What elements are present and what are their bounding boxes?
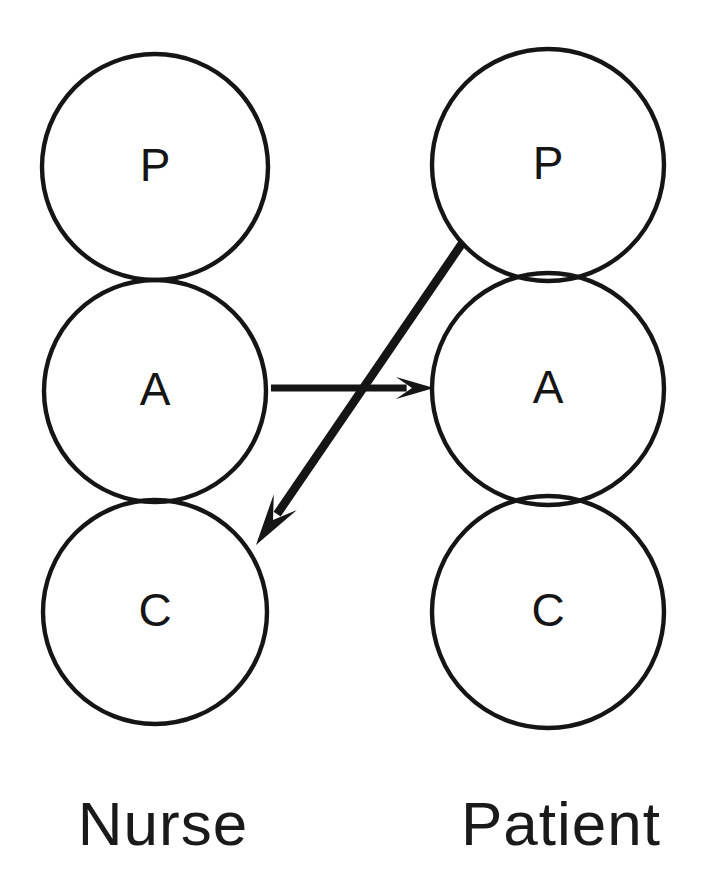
role-label-patient: Patient — [461, 789, 661, 858]
ego-letter-nurse-adult: A — [140, 363, 171, 415]
ego-state-nurse-adult[interactable]: A — [44, 280, 266, 502]
ego-state-patient-adult[interactable]: A — [432, 273, 664, 505]
crossed-transaction-arrowhead — [256, 494, 297, 545]
ego-state-nurse-child[interactable]: C — [43, 500, 267, 724]
role-label-nurse: Nurse — [78, 789, 248, 858]
diagram-canvas: P A C P A C — [0, 0, 703, 880]
ego-letter-patient-adult: A — [533, 361, 564, 413]
ego-letter-nurse-child: C — [138, 584, 171, 636]
ego-letter-patient-parent: P — [533, 137, 564, 189]
ego-letter-nurse-parent: P — [140, 139, 171, 191]
ego-state-nurse-parent[interactable]: P — [42, 54, 268, 280]
ego-letter-patient-child: C — [531, 584, 564, 636]
ego-state-patient-parent[interactable]: P — [432, 49, 664, 281]
column-patient: P A C — [432, 49, 664, 728]
complementary-transaction-arrow[interactable] — [271, 377, 434, 399]
ego-state-patient-child[interactable]: C — [432, 496, 664, 728]
role-labels: Nurse Patient — [78, 789, 661, 858]
column-nurse: P A C — [42, 54, 268, 724]
transactional-analysis-diagram: P A C P A C — [0, 0, 703, 880]
crossed-transaction-shaft[interactable] — [277, 242, 463, 514]
